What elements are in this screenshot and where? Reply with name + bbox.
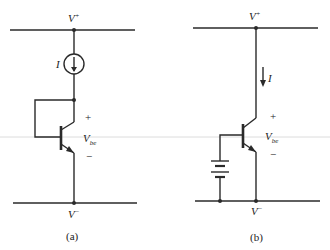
current-label-a: I [55, 58, 61, 70]
base-collector-short [35, 100, 74, 137]
current-source-icon [64, 54, 84, 74]
current-arrow-icon [260, 67, 266, 87]
plus-sign-b: + [270, 110, 276, 122]
battery-icon [211, 161, 229, 177]
npn-transistor-icon [243, 118, 256, 152]
v-plus-label-a: V+ [68, 12, 80, 24]
circuit-a: V+ I + Vbe − V− (a) [10, 12, 137, 243]
vbe-label-a: Vbe [83, 132, 96, 147]
vbe-label-b: Vbe [265, 130, 278, 145]
v-minus-label-a: V− [68, 208, 80, 220]
minus-sign-a: − [86, 150, 92, 162]
node-dot [72, 201, 76, 205]
v-plus-label-b: V+ [249, 10, 261, 22]
plus-sign-a: + [85, 111, 91, 123]
node-dot [218, 199, 222, 203]
base-wire [220, 135, 243, 161]
circuit-b: V+ I + Vbe − V− (b) [193, 10, 320, 244]
circuit-diagram: V+ I + Vbe − V− (a) V+ [0, 0, 330, 250]
caption-b: (b) [250, 231, 263, 244]
current-label-b: I [267, 72, 273, 84]
minus-sign-b: − [270, 148, 276, 160]
caption-a: (a) [66, 230, 79, 243]
node-dot [254, 199, 258, 203]
v-minus-label-b: V− [251, 205, 263, 217]
